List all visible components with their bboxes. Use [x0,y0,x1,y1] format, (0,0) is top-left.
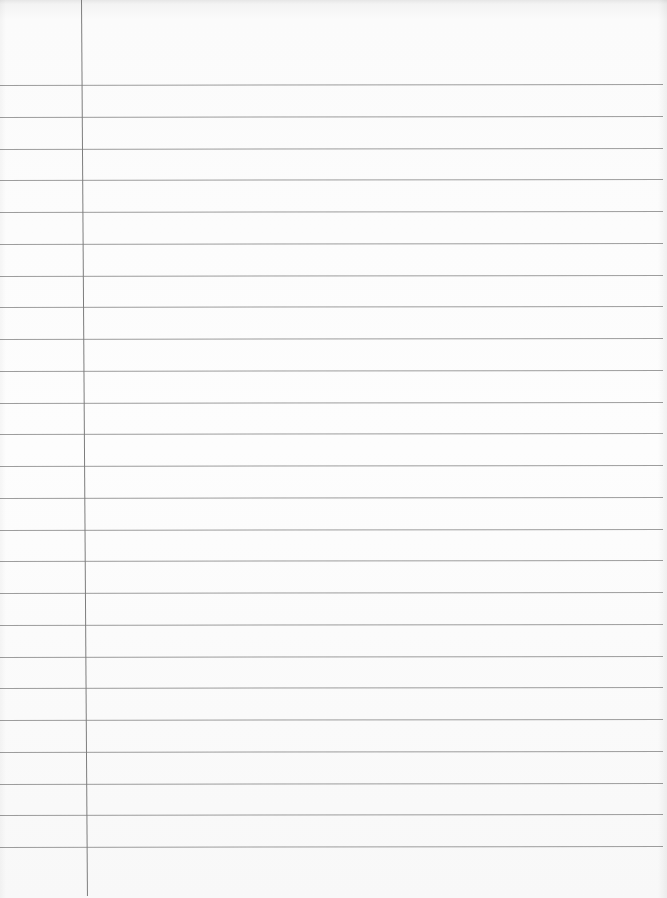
ruled-line [0,656,663,658]
ruled-line [0,148,663,150]
ruled-line [0,275,663,277]
ruled-line [0,814,663,816]
ruled-line [0,719,663,721]
ruled-line [0,433,663,435]
ruled-line [0,243,663,245]
ruled-line [0,624,663,626]
ruled-line [0,560,663,562]
ruled-line [0,751,663,753]
ruled-line [0,306,663,308]
ruled-line [0,211,663,213]
ruled-line [0,402,663,404]
ruled-line [0,84,663,86]
ruled-line [0,529,663,531]
ruled-line [0,846,663,848]
ruled-line [0,497,663,499]
ruled-line [0,783,663,785]
notebook-page [0,0,667,898]
ruled-lines [0,0,667,898]
ruled-line [0,465,663,467]
ruled-line [0,370,663,372]
ruled-line [0,179,663,181]
ruled-line [0,116,663,118]
ruled-line [0,592,663,594]
ruled-line [0,687,663,689]
ruled-line [0,338,663,340]
